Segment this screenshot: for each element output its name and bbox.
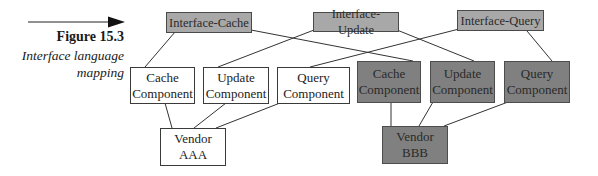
aaa-update-component-box: Update Component [203, 67, 269, 104]
edge-bupdate-bbb [419, 102, 433, 126]
aaa-query-component-box: Query Component [277, 67, 350, 104]
vendor-bbb-box: Vendor BBB [382, 126, 448, 164]
interface-cache-box: Interface-Cache [166, 12, 252, 33]
bbb-query-component-box: Query Component [504, 61, 570, 103]
interface-update-box: Interface-Update [313, 12, 399, 32]
aaa-cache-component-line2: Component [132, 86, 193, 102]
figure-number: Figure 15.3 [57, 29, 124, 45]
aaa-cache-component-line1: Cache [146, 70, 178, 86]
bbb-update-component-line1: Update [444, 66, 482, 82]
edge-bquery-bbb [444, 102, 508, 126]
vendor-bbb-label: Vendor BBB [383, 129, 447, 161]
aaa-query-component-line1: Query [297, 70, 330, 86]
aaa-cache-component-box: Cache Component [130, 67, 195, 104]
interface-update-label: Interface-Update [314, 6, 398, 38]
edge-acache-aaa [165, 103, 172, 128]
bbb-update-component-box: Update Component [430, 61, 495, 103]
edge-aquery-aaa [216, 103, 280, 128]
edge-aupdate-aaa [194, 103, 226, 128]
bbb-query-component-line2: Component [507, 82, 568, 98]
interface-query-box: Interface-Query [457, 10, 544, 31]
interface-cache-label: Interface-Cache [169, 15, 249, 31]
bbb-cache-component-line1: Cache [373, 66, 405, 82]
bbb-cache-component-line2: Component [359, 82, 420, 98]
vendor-aaa-label: Vendor AAA [161, 131, 225, 163]
aaa-update-component-line2: Component [206, 86, 267, 102]
figure-pointer-arrow-icon [28, 17, 125, 28]
bbb-update-component-line2: Component [432, 82, 493, 98]
figure-caption-line1: Interface language [22, 47, 124, 64]
edge-iquery-bquery [527, 31, 552, 61]
aaa-update-component-line1: Update [217, 70, 255, 86]
interface-mapping-diagram: Figure 15.3 Interface language mapping I… [0, 0, 598, 176]
aaa-query-component-line2: Component [283, 86, 344, 102]
figure-caption-line2: mapping [77, 64, 124, 81]
vendor-aaa-box: Vendor AAA [160, 128, 226, 166]
bbb-cache-component-box: Cache Component [357, 61, 421, 103]
interface-query-label: Interface-Query [461, 13, 541, 29]
edge-iupdate-aupdate [218, 30, 314, 67]
bbb-query-component-line1: Query [521, 66, 554, 82]
edge-icache-acache [145, 32, 175, 67]
